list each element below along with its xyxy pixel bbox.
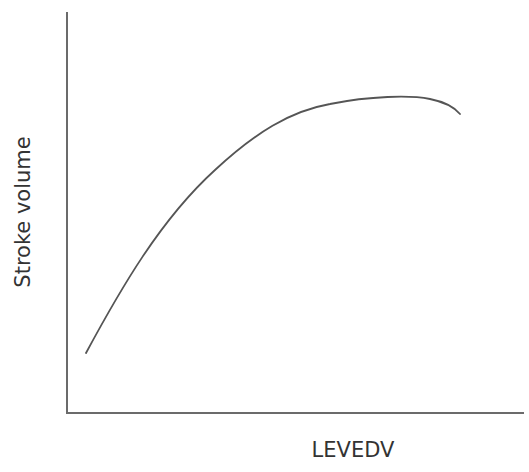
- y-axis-label: Stroke volume: [11, 136, 35, 287]
- x-axis-label: LEVEDV: [312, 438, 395, 462]
- frank-starling-chart: LEVEDV Stroke volume: [0, 0, 529, 472]
- stroke-volume-curve: [86, 97, 460, 353]
